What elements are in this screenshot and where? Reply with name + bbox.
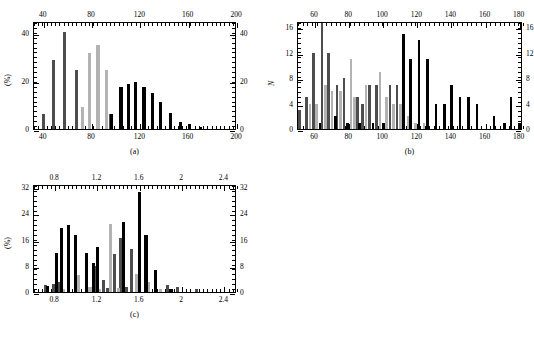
bar-black (170, 289, 173, 292)
panel-c-caption: (c) (33, 310, 236, 319)
bar-black (85, 253, 88, 292)
panel-c-ytick-label-left: 8 (11, 263, 29, 271)
panel-c-ytick-label-right: 24 (240, 210, 258, 218)
panel-c-xtick-label-bottom: 2 (161, 296, 201, 304)
panel-c-xtick-label-top: 1.2 (76, 174, 116, 182)
bar-black (67, 225, 70, 292)
bar-black (46, 286, 49, 292)
panel-c-xtick-label-top: 2.4 (203, 174, 243, 182)
bar-dark_gray (130, 249, 133, 292)
panel-c-ytick-label-right: 8 (240, 263, 258, 271)
panel-c-ylabel: (%) (3, 237, 12, 249)
bar-light_gray (77, 275, 80, 292)
panel-c-xtick-label-top: 0.8 (34, 174, 74, 182)
panel-c-ytick-label-right: 16 (240, 237, 258, 245)
bar-black (144, 235, 147, 292)
panel-c-xtick-label-bottom: 1.6 (119, 296, 159, 304)
bar-black (60, 228, 63, 292)
bar-black (55, 253, 58, 292)
panel-c-ytick-right (230, 294, 235, 295)
bar-black (74, 235, 77, 292)
panel-c-xtick-label-bottom: 2.4 (203, 296, 243, 304)
bar-light_gray (159, 289, 162, 292)
panel-c-ytick-label-left: 0 (11, 289, 29, 297)
panel-c-ytick-label-right: 0 (240, 289, 258, 297)
bar-black (92, 263, 95, 292)
bar-dark_gray (195, 289, 198, 292)
panel-c-minor-tick-bottom (237, 289, 238, 292)
panel-c-xtick-label-bottom: 1.2 (76, 296, 116, 304)
bar-black (138, 192, 141, 292)
panel-c-xtick-label-top: 2 (161, 174, 201, 182)
panel-c-ytick-label-left: 32 (11, 184, 29, 192)
bar-black (122, 222, 125, 292)
bar-dark_gray (102, 280, 105, 292)
panel-c-ytick-label-left: 24 (11, 210, 29, 218)
panel-c-minor-tick-top (237, 186, 238, 189)
bar-dark_gray (166, 285, 169, 292)
bar-dark_gray (113, 254, 116, 292)
panel-c-bars (34, 186, 235, 292)
panel-c-ytick-label-right: 32 (240, 184, 258, 192)
panel-c-ytick-label-left: 16 (11, 237, 29, 245)
panel-c-ytick-left (34, 294, 39, 295)
bar-black (96, 247, 99, 292)
panel-c-xtick-label-top: 1.6 (119, 174, 159, 182)
bar-dark_gray (176, 287, 179, 292)
panel-c: 0.80.81.21.21.61.6222.42.400881616242432… (0, 0, 534, 337)
bar-light_gray (117, 288, 120, 292)
bar-black (154, 270, 157, 292)
bar-light_gray (109, 224, 112, 292)
panel-c-xtick-label-bottom: 0.8 (34, 296, 74, 304)
panel-c-plot-frame (33, 185, 236, 293)
